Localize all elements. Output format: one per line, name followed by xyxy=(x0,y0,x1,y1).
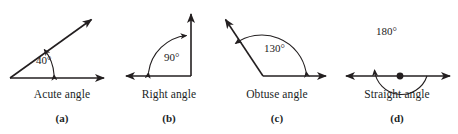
straight-angle-caption: Straight angle xyxy=(336,88,458,100)
panel-right-angle: 90° Right angle (b) xyxy=(114,0,224,134)
panel-straight-angle: 180° Straight angle (d) xyxy=(336,0,458,134)
straight-angle-measure-label: 180° xyxy=(376,25,397,37)
angle-types-figure: 40° Acute angle (a) xyxy=(0,0,458,134)
acute-angle-letter: (a) xyxy=(0,112,124,124)
panel-acute-angle: 40° Acute angle (a) xyxy=(0,0,124,134)
right-angle-letter: (b) xyxy=(114,112,224,124)
obtuse-angle-letter: (c) xyxy=(214,112,340,124)
right-angle-caption: Right angle xyxy=(114,88,224,100)
acute-angle-caption: Acute angle xyxy=(0,88,124,100)
straight-angle-letter: (d) xyxy=(336,112,458,124)
right-angle-diagram xyxy=(114,0,224,96)
obtuse-angle-caption: Obtuse angle xyxy=(214,88,340,100)
straight-angle-vertex-dot xyxy=(397,73,404,80)
obtuse-slanted-ray xyxy=(226,20,264,77)
acute-angle-diagram xyxy=(0,0,124,96)
acute-slanted-ray xyxy=(10,20,92,79)
straight-angle-diagram xyxy=(336,0,458,96)
right-angle-measure-label: 90° xyxy=(164,51,179,63)
panel-obtuse-angle: 130° Obtuse angle (c) xyxy=(214,0,340,134)
acute-angle-measure-label: 40° xyxy=(36,54,51,66)
obtuse-angle-measure-label: 130° xyxy=(264,42,285,54)
